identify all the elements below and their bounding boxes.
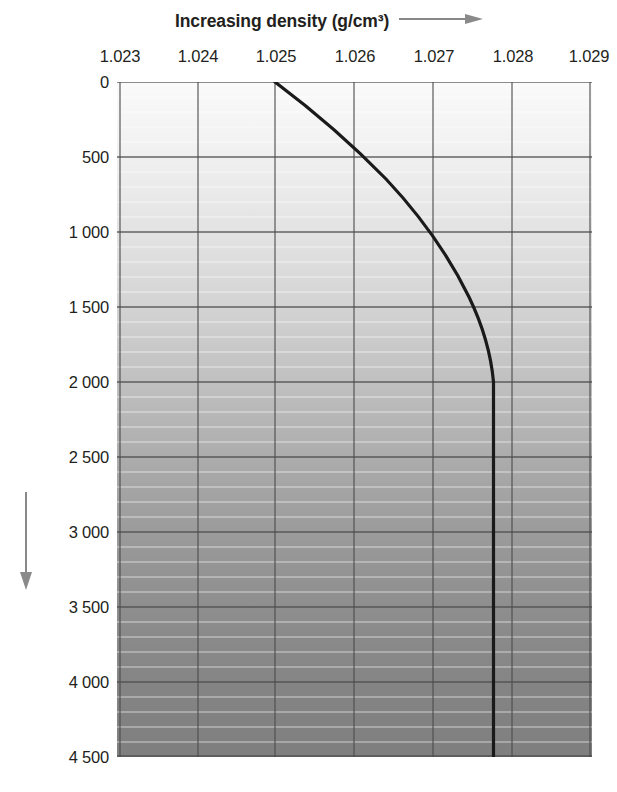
- x-tick-label: 1.028: [493, 47, 533, 66]
- density-profile-curve: [275, 82, 494, 756]
- x-axis-title: Increasing density (g/cm³): [175, 8, 595, 34]
- arrow-right-icon: [399, 12, 485, 30]
- y-tick-label: 1 500: [69, 298, 109, 317]
- y-tick-label: 3 500: [69, 598, 109, 617]
- plot-svg: [117, 82, 592, 757]
- y-tick-label: 1 000: [69, 223, 109, 242]
- y-tick-label: 2 000: [69, 373, 109, 392]
- y-tick-label: 3 000: [69, 523, 109, 542]
- y-tick-label: 4 000: [69, 673, 109, 692]
- x-axis-title-label: Increasing density (g/cm³): [175, 11, 389, 32]
- x-tick-label: 1.029: [569, 47, 609, 66]
- y-tick-label: 0: [100, 73, 109, 92]
- x-tick-label: 1.025: [256, 47, 296, 66]
- y-tick-label: 500: [82, 148, 109, 167]
- plot-area: [117, 82, 592, 757]
- y-axis-title: Increasing depth (m): [8, 270, 48, 600]
- density-depth-chart: Increasing density (g/cm³) 1.023 1.024 1…: [0, 0, 617, 792]
- y-tick-label: 4 500: [69, 748, 109, 767]
- x-tick-label: 1.026: [335, 47, 375, 66]
- arrow-down-icon: [18, 492, 34, 596]
- major-gridlines-vertical: [120, 82, 590, 757]
- x-tick-label: 1.024: [178, 47, 218, 66]
- y-tick-label: 2 500: [69, 448, 109, 467]
- x-tick-label: 1.027: [414, 47, 454, 66]
